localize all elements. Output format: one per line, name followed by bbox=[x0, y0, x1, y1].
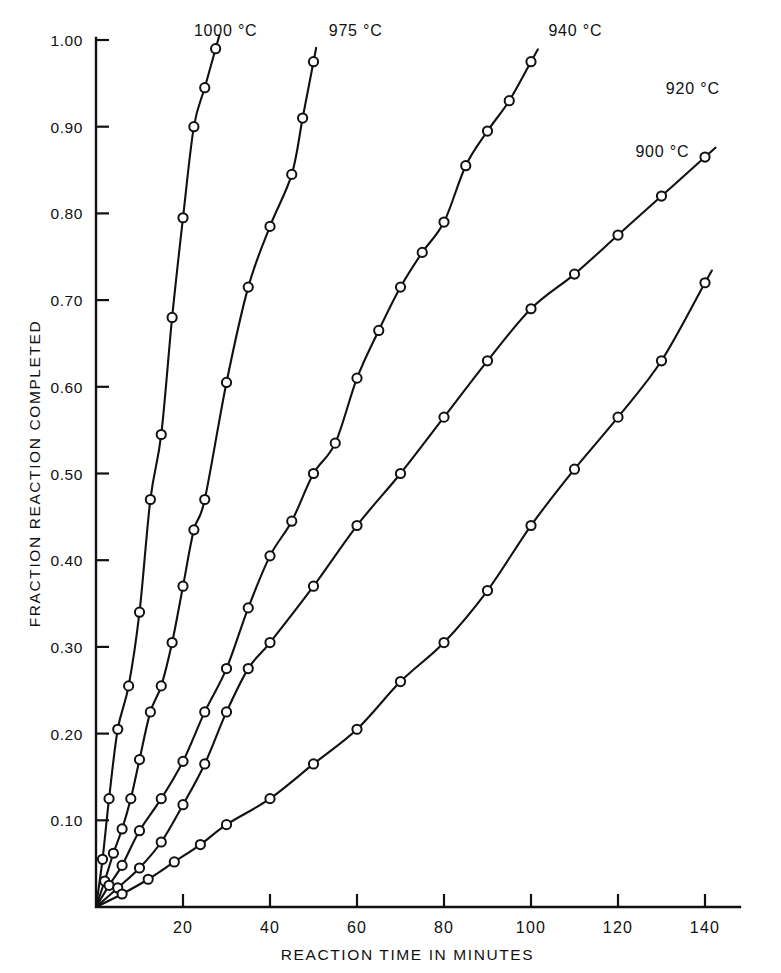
y-tick-label: 0.40 bbox=[50, 552, 83, 569]
x-tick-label: 40 bbox=[260, 919, 280, 936]
data-point-marker bbox=[505, 96, 514, 105]
data-point-marker bbox=[146, 495, 155, 504]
data-point-marker bbox=[396, 469, 405, 478]
data-point-marker bbox=[189, 525, 198, 534]
data-point-marker bbox=[657, 191, 666, 200]
data-point-marker bbox=[244, 664, 253, 673]
data-point-marker bbox=[483, 586, 492, 595]
data-point-marker bbox=[483, 356, 492, 365]
x-tick-label: 100 bbox=[516, 919, 546, 936]
data-point-marker bbox=[287, 170, 296, 179]
y-tick-label: 0.30 bbox=[50, 639, 83, 656]
series-labels: 1000 °C975 °C940 °C920 °C900 °C bbox=[194, 22, 720, 160]
y-tick-label: 0.90 bbox=[50, 119, 83, 136]
data-point-marker bbox=[168, 313, 177, 322]
data-point-marker bbox=[168, 638, 177, 647]
data-point-marker bbox=[461, 161, 470, 170]
data-point-marker bbox=[374, 326, 383, 335]
data-point-marker bbox=[118, 861, 127, 870]
data-point-marker bbox=[178, 757, 187, 766]
data-point-marker bbox=[265, 638, 274, 647]
data-point-marker bbox=[135, 863, 144, 872]
data-point-marker bbox=[222, 378, 231, 387]
data-point-marker bbox=[700, 278, 709, 287]
data-point-marker bbox=[146, 707, 155, 716]
data-point-marker bbox=[570, 465, 579, 474]
data-point-marker bbox=[483, 126, 492, 135]
data-point-marker bbox=[200, 759, 209, 768]
data-point-marker bbox=[178, 213, 187, 222]
series-label-975c: 975 °C bbox=[329, 22, 383, 39]
data-point-marker bbox=[178, 800, 187, 809]
data-point-marker bbox=[200, 495, 209, 504]
y-tick-label: 0.10 bbox=[50, 812, 83, 829]
x-tick-label: 60 bbox=[347, 919, 367, 936]
data-point-marker bbox=[657, 356, 666, 365]
curve-975c bbox=[96, 48, 316, 907]
data-point-marker bbox=[200, 707, 209, 716]
data-point-marker bbox=[178, 582, 187, 591]
data-point-marker bbox=[170, 857, 179, 866]
data-point-marker bbox=[104, 794, 113, 803]
data-point-marker bbox=[157, 430, 166, 439]
data-point-marker bbox=[244, 283, 253, 292]
y-tick-label: 0.60 bbox=[50, 379, 83, 396]
data-point-marker bbox=[196, 840, 205, 849]
data-point-marker bbox=[144, 875, 153, 884]
axes bbox=[96, 38, 740, 907]
y-tick-label: 0.50 bbox=[50, 466, 83, 483]
data-point-marker bbox=[222, 707, 231, 716]
data-point-marker bbox=[309, 57, 318, 66]
series-label-900c: 900 °C bbox=[635, 143, 689, 160]
data-point-marker bbox=[298, 113, 307, 122]
data-point-marker bbox=[109, 849, 118, 858]
series-label-940c: 940 °C bbox=[548, 22, 602, 39]
data-point-marker bbox=[98, 855, 107, 864]
data-point-marker bbox=[700, 152, 709, 161]
y-tick-label: 0.70 bbox=[50, 292, 83, 309]
y-axis-ticks: 0.100.200.300.400.500.600.700.800.901.00 bbox=[50, 32, 109, 829]
axis-lines bbox=[96, 38, 740, 907]
data-point-marker bbox=[265, 794, 274, 803]
data-point-marker bbox=[352, 374, 361, 383]
data-point-marker bbox=[309, 582, 318, 591]
x-tick-label: 20 bbox=[173, 919, 193, 936]
x-tick-label: 120 bbox=[603, 919, 633, 936]
data-point-marker bbox=[113, 725, 122, 734]
data-point-marker bbox=[352, 521, 361, 530]
series-label-1000c: 1000 °C bbox=[194, 22, 258, 39]
data-point-marker bbox=[200, 83, 209, 92]
data-curves bbox=[96, 35, 715, 907]
data-point-marker bbox=[157, 681, 166, 690]
data-point-marker bbox=[439, 217, 448, 226]
x-axis-title: REACTION TIME IN MINUTES bbox=[281, 946, 534, 963]
data-point-marker bbox=[211, 44, 220, 53]
data-point-marker bbox=[244, 603, 253, 612]
x-tick-label: 140 bbox=[690, 919, 720, 936]
x-axis-ticks: 20406080100120140 bbox=[173, 894, 720, 936]
figure-container: 0.100.200.300.400.500.600.700.800.901.00… bbox=[0, 0, 781, 973]
data-point-marker bbox=[526, 304, 535, 313]
data-point-marker bbox=[135, 755, 144, 764]
x-tick-label: 80 bbox=[434, 919, 454, 936]
data-point-marker bbox=[396, 283, 405, 292]
data-point-marker bbox=[126, 794, 135, 803]
data-point-marker bbox=[118, 889, 127, 898]
data-point-marker bbox=[613, 413, 622, 422]
data-point-marker bbox=[309, 469, 318, 478]
data-point-marker bbox=[157, 837, 166, 846]
curve-1000c bbox=[96, 35, 219, 907]
data-point-marker bbox=[135, 826, 144, 835]
y-tick-label: 1.00 bbox=[50, 32, 83, 49]
data-point-marker bbox=[439, 638, 448, 647]
data-point-marker bbox=[352, 725, 361, 734]
series-label-920c: 920 °C bbox=[666, 80, 720, 97]
y-tick-label: 0.80 bbox=[50, 205, 83, 222]
data-point-marker bbox=[570, 269, 579, 278]
y-tick-label: 0.20 bbox=[50, 726, 83, 743]
data-point-marker bbox=[265, 551, 274, 560]
data-point-marker bbox=[309, 759, 318, 768]
y-axis-title: FRACTION REACTION COMPLETED bbox=[26, 320, 43, 628]
data-point-marker bbox=[287, 517, 296, 526]
data-point-marker bbox=[526, 57, 535, 66]
